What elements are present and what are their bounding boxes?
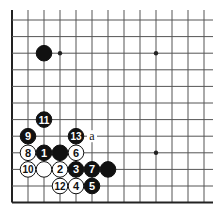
black-stone: 3 bbox=[68, 162, 84, 178]
black-stone: 1 bbox=[36, 145, 52, 161]
move-number: 11 bbox=[39, 115, 50, 126]
move-number: 7 bbox=[89, 163, 95, 175]
go-board: 11913816102371245 a bbox=[0, 0, 224, 212]
black-stone: 7 bbox=[84, 162, 100, 178]
move-number: 5 bbox=[89, 180, 95, 192]
move-number: 1 bbox=[41, 147, 47, 159]
move-number: 9 bbox=[25, 130, 31, 142]
black-stone bbox=[52, 145, 68, 161]
star-point bbox=[154, 51, 158, 55]
white-stone: 6 bbox=[68, 145, 84, 161]
move-number: 12 bbox=[54, 181, 66, 192]
star-point bbox=[154, 151, 158, 155]
star-point bbox=[58, 51, 62, 55]
black-stone: 13 bbox=[68, 128, 84, 144]
white-stone: 2 bbox=[52, 162, 68, 178]
black-stone bbox=[36, 45, 52, 61]
black-stone: 9 bbox=[20, 128, 36, 144]
markers: a bbox=[87, 129, 97, 143]
white-stone bbox=[36, 162, 52, 178]
white-stone: 8 bbox=[20, 145, 36, 161]
black-stone: 11 bbox=[36, 112, 52, 128]
white-stone: 12 bbox=[52, 178, 68, 194]
point-label: a bbox=[89, 129, 95, 143]
black-stone bbox=[100, 162, 116, 178]
white-stone: 4 bbox=[68, 178, 84, 194]
white-stone: 10 bbox=[20, 162, 36, 178]
black-stone: 5 bbox=[84, 178, 100, 194]
move-number: 2 bbox=[57, 163, 63, 175]
move-number: 6 bbox=[73, 147, 79, 159]
move-number: 10 bbox=[22, 164, 34, 175]
move-number: 13 bbox=[70, 131, 82, 142]
move-number: 3 bbox=[73, 163, 79, 175]
move-number: 4 bbox=[73, 180, 80, 192]
move-number: 8 bbox=[25, 147, 31, 159]
